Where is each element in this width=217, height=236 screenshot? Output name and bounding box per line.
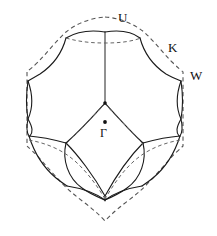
solid-left-bigon-outer — [27, 81, 30, 136]
fundamental-domain-diagram: U K W Γ — [0, 0, 217, 236]
gamma-center-point — [103, 120, 107, 124]
dashed-central-upper-right — [105, 104, 143, 144]
central-quad-upper-right-edge — [105, 103, 143, 143]
inner-solid-structure — [29, 32, 180, 201]
dashed-lower-left-lobe-arc — [29, 140, 105, 199]
dashed-top-chord — [66, 38, 141, 43]
inner-left-horizontal-edge — [29, 136, 66, 143]
central-quad-lower-left-edge — [66, 143, 105, 196]
label-k: K — [168, 40, 178, 55]
solid-right-bigon-inner — [177, 81, 181, 136]
inner-right-horizontal-edge — [143, 136, 180, 143]
solid-left-bigon-inner — [28, 81, 32, 136]
figure-root: U K W Γ — [0, 0, 217, 236]
center-node-dot — [103, 101, 107, 105]
solid-lower-right-side — [142, 136, 180, 186]
solid-upper-left-side — [28, 38, 66, 81]
label-gamma: Γ — [100, 126, 107, 140]
lower-right-lobe-arc — [105, 143, 144, 200]
solid-lower-left-side — [29, 136, 67, 186]
central-quad-lower-right-edge — [105, 143, 143, 196]
dashed-lower-right-lobe-arc — [105, 140, 180, 199]
diagram-labels: U K W Γ — [100, 10, 203, 140]
solid-top-left-arc — [66, 31, 105, 38]
label-w: W — [190, 68, 203, 83]
solid-top-right-arc — [105, 31, 140, 38]
solid-right-bigon-outer — [180, 81, 183, 136]
label-u: U — [118, 10, 128, 25]
